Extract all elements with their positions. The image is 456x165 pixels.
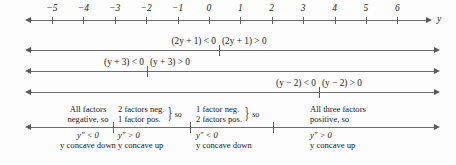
- number-line-tick-label-8: 3: [301, 3, 306, 13]
- number-line-tick-label-10: 5: [364, 3, 369, 13]
- number-line-tick-8: [303, 17, 304, 24]
- interval-3-above: 1 factor neg. 2 factors pos. } so: [196, 104, 259, 124]
- factor-y-minus-2-positive-label: (y − 2) > 0: [319, 78, 362, 88]
- factor-line-y-minus-2-right-arrow: [434, 89, 440, 95]
- factor-line-y-minus-2-boundary-tick: [319, 87, 320, 98]
- sign-analysis-figure: y −5−4−3−2−10123456 (2y + 1) < 0 (2y + 1…: [0, 0, 456, 165]
- interval-1-above-line-1: All factors: [67, 104, 108, 114]
- number-line-tick-label-5: 0: [207, 3, 212, 13]
- number-line-tick-3: [146, 17, 147, 24]
- interval-3-above-line-1: 1 factor neg.: [196, 104, 242, 114]
- number-line-tick-label-1: −4: [78, 3, 89, 13]
- factor-line-2y-plus-1-left-arrow: [25, 47, 31, 53]
- factor-line-y-plus-3-boundary-tick: [147, 66, 148, 77]
- number-line-tick-0: [52, 17, 53, 24]
- interval-2-above-line-2: 1 factor pos.: [118, 114, 165, 124]
- factor-2y-plus-1-positive-label: (2y + 1) > 0: [219, 36, 267, 46]
- factor-line-y-plus-3-left-arrow: [25, 68, 31, 74]
- axis-variable-label: y: [437, 14, 441, 24]
- interval-1-below-line-2: y concave down: [60, 140, 116, 150]
- interval-3-below: y″ < 0 y concave down: [196, 130, 252, 151]
- number-line-right-arrow: [426, 17, 432, 23]
- number-line-tick-label-3: −2: [141, 3, 152, 13]
- interval-2-below: y″ > 0 y concave up: [118, 130, 163, 151]
- summary-boundary-tick-3: [273, 122, 274, 133]
- interval-4-below-line-1: y″ > 0: [310, 130, 355, 140]
- factor-line-y-minus-2: [30, 92, 434, 93]
- interval-2-below-line-1: y″ > 0: [118, 130, 163, 140]
- number-line-tick-9: [335, 17, 336, 24]
- summary-line-axis: [30, 127, 434, 128]
- interval-2-below-line-2: y concave up: [118, 140, 163, 150]
- number-line-tick-label-2: −3: [109, 3, 120, 13]
- number-line-tick-label-6: 1: [238, 3, 243, 13]
- interval-1-above-line-2: negative, so: [67, 114, 108, 124]
- factor-line-2y-plus-1: [30, 50, 434, 51]
- number-line-tick-label-7: 2: [269, 3, 274, 13]
- interval-4-above-line-2: positive, so: [310, 114, 366, 124]
- number-line-tick-5: [209, 17, 210, 24]
- interval-3-brace-suffix: so: [251, 110, 259, 119]
- summary-line-left-arrow: [25, 124, 31, 130]
- factor-y-plus-3-negative-label: (y + 3) < 0: [104, 57, 147, 67]
- interval-4-below-line-2: y concave up: [310, 140, 355, 150]
- number-line-tick-4: [178, 17, 179, 24]
- factor-line-2y-plus-1-boundary-tick: [219, 45, 220, 56]
- factor-line-y-plus-3: [30, 71, 434, 72]
- number-line-tick-11: [397, 17, 398, 24]
- number-line-tick-10: [366, 17, 367, 24]
- factor-2y-plus-1-negative-label: (2y + 1) < 0: [171, 36, 219, 46]
- number-line-tick-1: [83, 17, 84, 24]
- number-line-tick-label-11: 6: [395, 3, 400, 13]
- interval-3-below-line-2: y concave down: [196, 140, 252, 150]
- interval-1-below-line-1: y″ < 0: [60, 130, 116, 140]
- interval-4-above-line-1: All three factors: [310, 104, 366, 114]
- interval-1-below: y″ < 0 y concave down: [60, 130, 116, 151]
- factor-y-plus-3-positive-label: (y + 3) > 0: [147, 57, 190, 67]
- number-line-tick-7: [272, 17, 273, 24]
- interval-3-below-line-1: y″ < 0: [196, 130, 252, 140]
- right-brace-icon: }: [245, 110, 249, 118]
- factor-line-2y-plus-1-right-arrow: [434, 47, 440, 53]
- number-line-tick-label-0: −5: [46, 3, 57, 13]
- interval-2-above: 2 factors neg. 1 factor pos. } so: [118, 104, 182, 124]
- number-line-tick-6: [240, 17, 241, 24]
- factor-y-minus-2-negative-label: (y − 2) < 0: [276, 78, 319, 88]
- factor-line-y-plus-3-right-arrow: [434, 68, 440, 74]
- factor-line-y-minus-2-left-arrow: [25, 89, 31, 95]
- interval-1-above: All factors negative, so: [67, 104, 108, 124]
- right-brace-icon: }: [167, 110, 171, 118]
- interval-2-above-line-1: 2 factors neg.: [118, 104, 165, 114]
- interval-2-brace-suffix: so: [174, 110, 182, 119]
- number-line-tick-label-4: −1: [172, 3, 183, 13]
- interval-4-below: y″ > 0 y concave up: [310, 130, 355, 151]
- number-line-tick-2: [115, 17, 116, 24]
- summary-line-right-arrow: [434, 124, 440, 130]
- interval-3-above-line-2: 2 factors pos.: [196, 114, 242, 124]
- number-line-left-arrow: [25, 17, 31, 23]
- summary-boundary-tick-2: [190, 122, 191, 133]
- interval-4-above: All three factors positive, so: [310, 104, 366, 124]
- number-line-tick-label-9: 4: [332, 3, 337, 13]
